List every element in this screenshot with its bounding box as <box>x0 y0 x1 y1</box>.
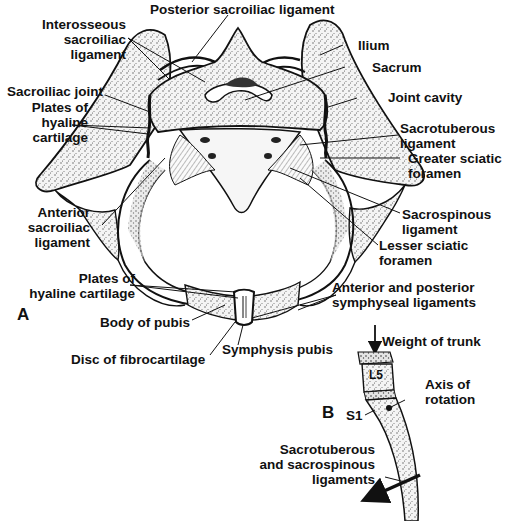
label-axis-of-rotation: Axis of rotation <box>425 377 475 407</box>
label-lesser-sciatic-foramen: Lesser sciatic foramen <box>379 238 468 268</box>
label-weight-of-trunk: Weight of trunk <box>382 334 481 349</box>
label-s1: S1 <box>346 408 363 423</box>
label-sacrum: Sacrum <box>372 60 422 75</box>
label-body-of-pubis: Body of pubis <box>100 315 190 330</box>
label-interosseous-sacroiliac-ligament: Interosseous sacroiliac ligament <box>20 17 126 62</box>
label-symphysis-pubis: Symphysis pubis <box>222 342 333 357</box>
label-sacrospinous-ligament: Sacrospinous ligament <box>402 207 491 237</box>
label-posterior-sacroiliac-ligament: Posterior sacroiliac ligament <box>150 2 335 17</box>
label-anterior-posterior-symphyseal-ligaments: Anterior and posterior symphyseal ligame… <box>332 280 476 310</box>
label-sacrotuberous-sacrospinous-ligaments: Sacrotuberous and sacrospinous ligaments <box>255 442 375 487</box>
label-greater-sciatic-foramen: Greater sciatic foramen <box>408 151 502 181</box>
label-plates-hyaline-upper: Plates of hyaline cartilage <box>10 100 88 145</box>
label-joint-cavity: Joint cavity <box>388 90 462 105</box>
label-l5: L5 <box>369 368 383 383</box>
label-plates-hyaline-lower: Plates of hyaline cartilage <box>20 271 135 301</box>
sacrum <box>148 28 327 132</box>
panel-a-letter: A <box>17 307 29 322</box>
label-disc-of-fibrocartilage: Disc of fibrocartilage <box>71 352 205 367</box>
pelvis-anatomy-figure: Posterior sacroiliac ligament Interosseo… <box>0 0 506 521</box>
label-anterior-sacroiliac-ligament: Anterior sacroiliac ligament <box>10 205 90 250</box>
label-sacrotuberous-ligament: Sacrotuberous ligament <box>400 121 495 151</box>
panel-b-letter: B <box>322 405 334 420</box>
lumbosacral-column <box>358 325 420 521</box>
label-sacroiliac-joint: Sacroiliac joint <box>7 84 103 99</box>
label-ilium: Ilium <box>358 38 390 53</box>
